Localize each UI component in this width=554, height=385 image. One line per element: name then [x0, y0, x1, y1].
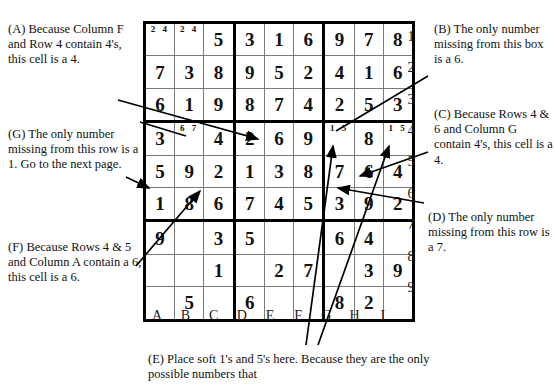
cell-value: 1: [355, 57, 383, 88]
annotation-a: (A) Because Column F and Row 4 contain 4…: [8, 22, 140, 68]
sudoku-cell-B5[interactable]: 9: [175, 155, 204, 187]
row-label-5: 5: [401, 147, 421, 178]
sudoku-cell-D7[interactable]: 5: [234, 221, 264, 254]
sudoku-cell-H8[interactable]: 3: [354, 254, 383, 286]
sudoku-cell-G6[interactable]: 3: [324, 187, 354, 220]
sudoku-cell-F3[interactable]: 4: [294, 88, 324, 121]
cell-value: 7: [294, 255, 322, 286]
cell-value: 1: [146, 188, 174, 219]
sudoku-cell-H2[interactable]: 1: [354, 56, 383, 88]
sudoku-cell-D3[interactable]: 8: [234, 88, 264, 121]
cell-value: 7: [265, 89, 293, 120]
sudoku-cell-H1[interactable]: 7: [354, 23, 383, 56]
sudoku-cell-D6[interactable]: 7: [234, 187, 264, 220]
sudoku-cell-B8[interactable]: [175, 254, 204, 286]
sudoku-cell-D5[interactable]: 1: [234, 155, 264, 187]
sudoku-cell-A3[interactable]: 6: [145, 88, 175, 121]
cell-value: 8: [175, 188, 203, 219]
sudoku-cell-D1[interactable]: 3: [234, 23, 264, 56]
sudoku-cell-E1[interactable]: 1: [264, 23, 293, 56]
cell-value: 2: [325, 89, 353, 120]
sudoku-cell-A1[interactable]: 2 4: [145, 23, 175, 56]
cell-value: 4: [265, 188, 293, 219]
cell-value: 5: [204, 24, 232, 55]
column-label-G: G: [312, 308, 340, 324]
sudoku-cell-A4[interactable]: 3: [145, 122, 175, 155]
sudoku-cell-H3[interactable]: 5: [354, 88, 383, 121]
row-label-3: 3: [401, 84, 421, 115]
row-labels: 123456789: [401, 21, 421, 304]
cell-value: 7: [325, 156, 353, 187]
cell-value: 6: [355, 156, 383, 187]
annotation-c: (C) Because Rows 4 & 6 and Column G cont…: [434, 107, 554, 168]
sudoku-cell-F1[interactable]: 6: [294, 23, 324, 56]
sudoku-cell-B1[interactable]: 2 4: [175, 23, 204, 56]
sudoku-table[interactable]: 2 42 4531697873895241661987425336 742691…: [143, 21, 415, 322]
cell-value: 8: [236, 89, 264, 120]
cell-value: 8: [294, 156, 322, 187]
sudoku-cell-E6[interactable]: 4: [264, 187, 293, 220]
sudoku-cell-E5[interactable]: 3: [264, 155, 293, 187]
cell-value: 2: [265, 255, 293, 286]
sudoku-cell-H6[interactable]: 9: [354, 187, 383, 220]
sudoku-cell-B6[interactable]: 8: [175, 187, 204, 220]
sudoku-cell-B3[interactable]: 1: [175, 88, 204, 121]
sudoku-cell-G4[interactable]: 1 5: [324, 122, 354, 155]
cell-value: 3: [175, 57, 203, 88]
sudoku-cell-F5[interactable]: 8: [294, 155, 324, 187]
row-label-8: 8: [401, 241, 421, 272]
sudoku-cell-G8[interactable]: [324, 254, 354, 286]
sudoku-cell-E4[interactable]: 6: [264, 122, 293, 155]
sudoku-cell-B7[interactable]: [175, 221, 204, 254]
sudoku-cell-C3[interactable]: 9: [204, 88, 234, 121]
sudoku-cell-H4[interactable]: 8: [354, 122, 383, 155]
cell-value: 1: [204, 255, 232, 286]
sudoku-cell-G2[interactable]: 4: [324, 56, 354, 88]
sudoku-cell-F7[interactable]: [294, 221, 324, 254]
sudoku-cell-G7[interactable]: 6: [324, 221, 354, 254]
cell-value: 1: [175, 89, 203, 120]
sudoku-cell-G1[interactable]: 9: [324, 23, 354, 56]
sudoku-cell-F4[interactable]: 9: [294, 122, 324, 155]
sudoku-cell-A8[interactable]: [145, 254, 175, 286]
cell-value: 5: [265, 57, 293, 88]
sudoku-cell-E8[interactable]: 2: [264, 254, 293, 286]
sudoku-cell-D2[interactable]: 9: [234, 56, 264, 88]
sudoku-cell-E2[interactable]: 5: [264, 56, 293, 88]
sudoku-row: 2 42 45316978: [145, 23, 414, 56]
cell-value: 9: [204, 89, 232, 120]
sudoku-cell-H5[interactable]: 6: [354, 155, 383, 187]
sudoku-cell-B4[interactable]: 6 7: [175, 122, 204, 155]
sudoku-cell-C4[interactable]: 4: [204, 122, 234, 155]
sudoku-cell-C7[interactable]: 3: [204, 221, 234, 254]
sudoku-cell-A2[interactable]: 7: [145, 56, 175, 88]
sudoku-cell-B2[interactable]: 3: [175, 56, 204, 88]
sudoku-cell-F8[interactable]: 7: [294, 254, 324, 286]
sudoku-cell-C1[interactable]: 5: [204, 23, 234, 56]
sudoku-cell-A6[interactable]: 1: [145, 187, 175, 220]
sudoku-grid[interactable]: 2 42 4531697873895241661987425336 742691…: [143, 21, 397, 304]
sudoku-cell-F2[interactable]: 2: [294, 56, 324, 88]
sudoku-cell-D4[interactable]: 2: [234, 122, 264, 155]
sudoku-cell-A5[interactable]: 5: [145, 155, 175, 187]
sudoku-cell-D8[interactable]: [234, 254, 264, 286]
sudoku-cell-C6[interactable]: 6: [204, 187, 234, 220]
cell-value: 6: [146, 89, 174, 120]
sudoku-cell-E7[interactable]: [264, 221, 293, 254]
cell-value: 9: [236, 57, 264, 88]
sudoku-cell-C5[interactable]: 2: [204, 155, 234, 187]
sudoku-cell-G3[interactable]: 2: [324, 88, 354, 121]
sudoku-cell-E3[interactable]: 7: [264, 88, 293, 121]
sudoku-row: 93564: [145, 221, 414, 254]
sudoku-cell-F6[interactable]: 5: [294, 187, 324, 220]
cell-value: 7: [146, 57, 174, 88]
row-label-1: 1: [401, 21, 421, 52]
sudoku-cell-H7[interactable]: 4: [354, 221, 383, 254]
cell-value: 7: [236, 188, 264, 219]
sudoku-cell-C2[interactable]: 8: [204, 56, 234, 88]
cell-value: 6: [294, 24, 322, 55]
sudoku-cell-A7[interactable]: 9: [145, 221, 175, 254]
cell-value: 2: [236, 123, 264, 154]
sudoku-cell-G5[interactable]: 7: [324, 155, 354, 187]
sudoku-cell-C8[interactable]: 1: [204, 254, 234, 286]
